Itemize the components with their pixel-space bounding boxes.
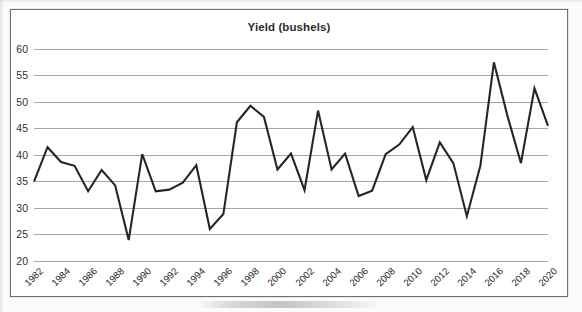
x-tick-label: 2016	[483, 266, 505, 288]
x-tick-label: 1988	[104, 266, 126, 288]
y-tick-label: 55	[16, 70, 28, 81]
line-series-yield	[34, 49, 548, 262]
x-tick-label: 1984	[50, 266, 72, 288]
x-tick-label: 2010	[402, 266, 424, 288]
y-tick-label: 50	[16, 97, 28, 108]
scanned-page: Yield (bushels) 202530354045505560 19821…	[0, 0, 582, 312]
y-tick-label: 40	[16, 150, 28, 161]
scan-edge-shadow-top	[0, 0, 582, 3]
x-tick-label: 1986	[77, 266, 99, 288]
x-tick-label: 2004	[320, 266, 342, 288]
x-tick-label: 1992	[158, 266, 180, 288]
x-tick-label: 1996	[212, 266, 234, 288]
x-tick-label: 1998	[239, 266, 261, 288]
x-tick-label: 2018	[510, 266, 532, 288]
x-tick-label: 1982	[23, 266, 45, 288]
y-tick-label: 25	[16, 229, 28, 240]
y-tick-label: 20	[16, 256, 28, 267]
y-tick-label: 35	[16, 176, 28, 187]
x-tick-label: 1990	[131, 266, 153, 288]
chart-title: Yield (bushels)	[11, 21, 567, 33]
x-tick-label: 2012	[429, 266, 451, 288]
x-axis-line	[34, 261, 548, 262]
x-tick-label: 1994	[185, 266, 207, 288]
scan-edge-shadow-left	[0, 0, 4, 312]
y-tick-label: 60	[16, 43, 28, 54]
series-polyline	[34, 62, 548, 240]
x-tick-label: 2000	[266, 266, 288, 288]
y-tick-label: 45	[16, 123, 28, 134]
x-tick-label: 2006	[348, 266, 370, 288]
x-tick-label: 2002	[293, 266, 315, 288]
x-tick-label: 2014	[456, 266, 478, 288]
x-tick-label: 2008	[375, 266, 397, 288]
chart-frame: Yield (bushels) 202530354045505560 19821…	[10, 9, 568, 297]
scan-artifact-smudge	[196, 301, 382, 308]
x-tick-label: 2020	[537, 266, 559, 288]
y-tick-label: 30	[16, 203, 28, 214]
plot-area: 202530354045505560 198219841986198819901…	[34, 49, 548, 261]
